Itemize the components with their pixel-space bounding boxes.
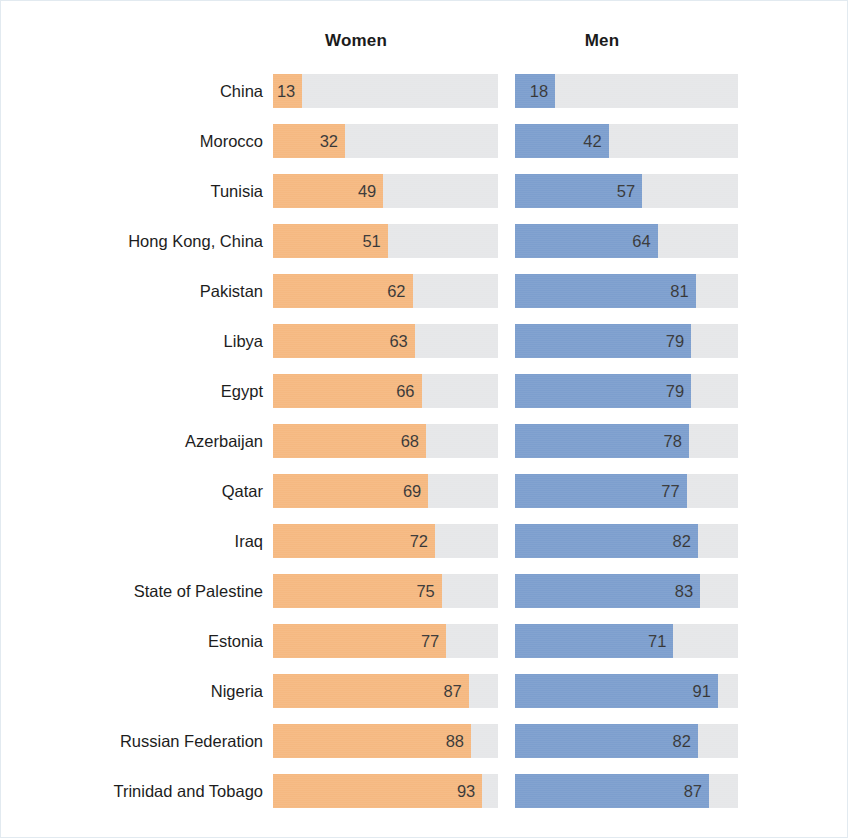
women-bar: 72 [273,524,435,558]
men-bar-track: 57 [515,174,738,208]
country-label: Iraq [235,524,263,558]
women-bar-value: 88 [446,724,464,758]
men-bar: 83 [515,574,700,608]
men-bar-track: 91 [515,674,738,708]
women-bar: 93 [273,774,482,808]
men-bar: 18 [515,74,555,108]
women-bar: 63 [273,324,415,358]
men-bar-value: 82 [673,724,691,758]
men-bar-track: 64 [515,224,738,258]
women-bar-track: 88 [273,724,498,758]
women-bar-track: 66 [273,374,498,408]
women-bar-value: 66 [396,374,414,408]
women-bar-value: 75 [416,574,434,608]
chart-row: China1318 [1,74,848,124]
women-bar-track: 63 [273,324,498,358]
men-bar-value: 42 [583,124,601,158]
women-bar: 75 [273,574,442,608]
country-label: Russian Federation [120,724,263,758]
chart-row: Qatar6977 [1,474,848,524]
chart-row: Hong Kong, China5164 [1,224,848,274]
bar-rows: China1318Morocco3242Tunisia4957Hong Kong… [1,74,848,824]
men-bar-track: 79 [515,324,738,358]
women-bar-value: 87 [443,674,461,708]
country-label: Morocco [200,124,263,158]
men-bar: 87 [515,774,709,808]
women-bar: 88 [273,724,471,758]
country-label: Estonia [208,624,263,658]
men-bar: 77 [515,474,687,508]
men-bar: 78 [515,424,689,458]
women-bar-track: 87 [273,674,498,708]
men-bar: 79 [515,374,691,408]
country-label: Libya [224,324,263,358]
men-bar: 57 [515,174,642,208]
women-bar-value: 69 [403,474,421,508]
men-bar-track: 82 [515,724,738,758]
country-label: Hong Kong, China [128,224,263,258]
men-bar-value: 82 [673,524,691,558]
men-bar: 71 [515,624,673,658]
chart-row: State of Palestine7583 [1,574,848,624]
country-label: China [220,74,263,108]
women-bar-track: 49 [273,174,498,208]
men-bar-track: 87 [515,774,738,808]
women-bar-track: 75 [273,574,498,608]
country-label: Tunisia [210,174,263,208]
men-bar-track: 82 [515,524,738,558]
men-bar-track: 79 [515,374,738,408]
chart-row: Pakistan6281 [1,274,848,324]
women-bar-value: 93 [457,774,475,808]
women-bar-value: 49 [358,174,376,208]
women-bar-value: 63 [389,324,407,358]
women-bar: 87 [273,674,469,708]
women-bar: 51 [273,224,388,258]
women-bar-value: 77 [421,624,439,658]
chart-row: Trinidad and Tobago9387 [1,774,848,824]
women-bar-track: 51 [273,224,498,258]
men-bar: 64 [515,224,658,258]
men-bar-value: 81 [670,274,688,308]
men-bar-value: 57 [617,174,635,208]
country-label: Pakistan [200,274,263,308]
women-bar: 66 [273,374,422,408]
chart-row: Morocco3242 [1,124,848,174]
men-bar-track: 18 [515,74,738,108]
women-bar-track: 13 [273,74,498,108]
men-bar: 82 [515,724,698,758]
men-bar-value: 71 [648,624,666,658]
men-bar-value: 87 [684,774,702,808]
chart-row: Nigeria8791 [1,674,848,724]
country-label: Nigeria [211,674,263,708]
women-bar-value: 62 [387,274,405,308]
country-label: State of Palestine [134,574,263,608]
women-bar-value: 68 [401,424,419,458]
women-bar-value: 13 [277,74,295,108]
men-bar-track: 42 [515,124,738,158]
men-bar-value: 79 [666,374,684,408]
women-bar-track: 93 [273,774,498,808]
men-bar-value: 78 [664,424,682,458]
men-bar: 91 [515,674,718,708]
country-label: Trinidad and Tobago [113,774,263,808]
country-label: Qatar [222,474,263,508]
women-bar: 62 [273,274,413,308]
country-label: Azerbaijan [185,424,263,458]
men-bar: 81 [515,274,696,308]
men-bar-value: 18 [530,74,548,108]
chart-container: Women Men China1318Morocco3242Tunisia495… [0,0,848,838]
women-bar-track: 62 [273,274,498,308]
men-bar: 42 [515,124,609,158]
men-bar-value: 83 [675,574,693,608]
column-header-women: Women [325,31,387,51]
men-bar-value: 64 [632,224,650,258]
women-bar-value: 32 [320,124,338,158]
men-bar-value: 79 [666,324,684,358]
chart-row: Azerbaijan6878 [1,424,848,474]
chart-row: Egypt6679 [1,374,848,424]
women-bar: 69 [273,474,428,508]
women-bar-track: 72 [273,524,498,558]
women-bar: 68 [273,424,426,458]
chart-row: Estonia7771 [1,624,848,674]
men-bar: 82 [515,524,698,558]
